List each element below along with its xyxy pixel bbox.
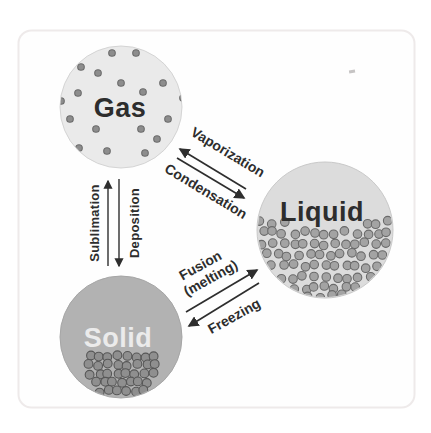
- particle-dot: [335, 249, 344, 258]
- particle-dot: [94, 362, 103, 371]
- particle-dot: [133, 50, 140, 57]
- particle-dot: [353, 230, 362, 239]
- particle-dot: [322, 261, 331, 270]
- particle-dot: [363, 220, 372, 229]
- particle-dot: [160, 80, 167, 87]
- particle-dot: [282, 252, 291, 261]
- particle-dot: [104, 148, 111, 155]
- particle-dot: [311, 229, 320, 238]
- particle-dot: [133, 377, 142, 386]
- particle-dot: [109, 50, 116, 57]
- particle-dot: [118, 378, 127, 387]
- particle-dot: [268, 227, 277, 236]
- particle-dot: [289, 275, 298, 284]
- particle-dot: [122, 387, 131, 396]
- particle-dot: [138, 126, 145, 133]
- particle-dot: [93, 126, 100, 133]
- particle-dot: [165, 116, 172, 123]
- particle-dot: [357, 252, 366, 261]
- particle-dot: [329, 230, 338, 239]
- particle-dot: [340, 227, 349, 236]
- particle-dot: [310, 260, 319, 269]
- particle-dot: [150, 360, 159, 369]
- particle-dot: [301, 263, 310, 272]
- deposition-label: Deposition: [127, 188, 142, 258]
- particle-dot: [291, 230, 300, 239]
- particle-dot: [84, 360, 93, 369]
- particle-dot: [351, 240, 360, 249]
- particle-dot: [315, 250, 324, 259]
- particle-dot: [371, 220, 380, 229]
- particle-dot: [369, 250, 378, 259]
- particle-dot: [113, 386, 122, 395]
- particle-dot: [277, 230, 286, 239]
- particle-dot: [75, 90, 82, 97]
- phase-change-diagram: Gas Liquid Solid Vaporization Condensati…: [0, 0, 431, 433]
- particle-dot: [103, 359, 112, 368]
- particle-dot: [140, 369, 149, 378]
- particle-dot: [121, 369, 130, 378]
- particle-dot: [118, 80, 125, 87]
- particle-dot: [104, 386, 113, 395]
- particle-dot: [67, 116, 74, 123]
- particle-dot: [353, 273, 362, 282]
- particle-dot: [95, 70, 102, 77]
- particle-dot: [307, 250, 316, 259]
- particle-dot: [330, 262, 339, 271]
- particle-dot: [343, 275, 352, 284]
- sublimation-label: Sublimation: [87, 184, 102, 262]
- solid-state: Solid: [60, 276, 182, 398]
- gas-label: Gas: [94, 93, 147, 123]
- liquid-label: Liquid: [280, 197, 364, 227]
- particle-dot: [327, 252, 336, 261]
- particle-dot: [319, 241, 328, 250]
- particle-dot: [309, 283, 318, 292]
- particle-dot: [263, 249, 272, 258]
- particle-dot: [378, 251, 387, 260]
- particle-dot: [92, 377, 101, 386]
- particle-dot: [142, 150, 149, 157]
- particle-dot: [360, 238, 369, 247]
- particle-dot: [364, 230, 373, 239]
- particle-dot: [322, 273, 331, 282]
- particle-dot: [78, 64, 85, 71]
- particle-dot: [348, 249, 357, 258]
- page: Gas Liquid Solid Vaporization Condensati…: [0, 0, 431, 433]
- particle-dot: [295, 251, 304, 260]
- particle-dot: [114, 361, 123, 370]
- particle-dot: [383, 216, 392, 225]
- particle-dot: [149, 368, 158, 377]
- particle-dot: [289, 260, 298, 269]
- particle-dot: [133, 360, 142, 369]
- particle-dot: [298, 272, 307, 281]
- particle-dot: [298, 240, 307, 249]
- particle-dot: [108, 377, 117, 386]
- particle-dot: [320, 282, 329, 291]
- particle-dot: [334, 274, 343, 283]
- particle-dot: [350, 261, 359, 270]
- particle-dot: [85, 370, 94, 379]
- particle-dot: [361, 264, 370, 273]
- solid-label: Solid: [84, 323, 153, 353]
- particle-dot: [382, 228, 391, 237]
- particle-dot: [301, 227, 310, 236]
- particle-dot: [154, 136, 161, 143]
- particle-dot: [94, 352, 103, 361]
- particle-dot: [342, 240, 351, 249]
- particle-dot: [382, 239, 391, 248]
- particle-dot: [372, 240, 381, 249]
- particle-dot: [319, 230, 328, 239]
- particle-dot: [310, 239, 319, 248]
- particle-dot: [268, 239, 277, 248]
- particle-dot: [103, 369, 112, 378]
- particle-dot: [281, 239, 290, 248]
- particle-dot: [280, 261, 289, 270]
- particle-dot: [331, 239, 340, 248]
- particle-dot: [310, 272, 319, 281]
